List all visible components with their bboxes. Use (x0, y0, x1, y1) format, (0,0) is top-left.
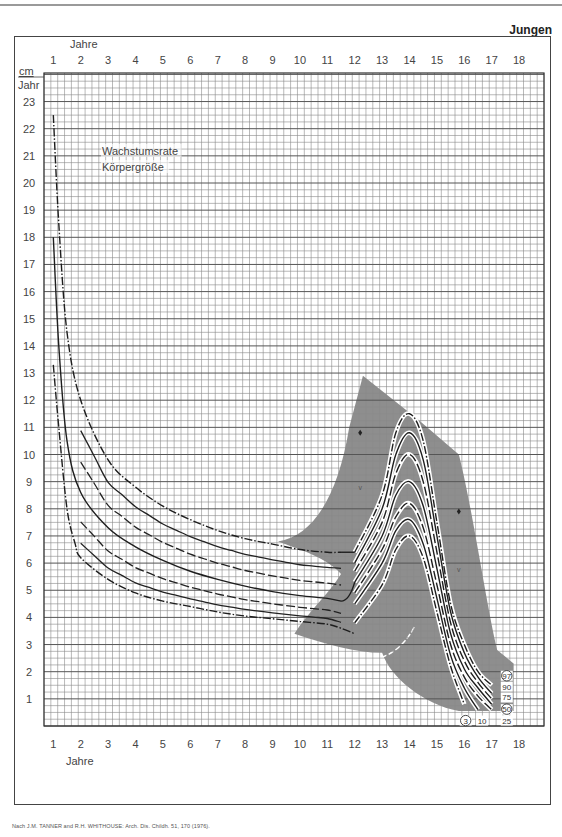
y-tick: 8 (26, 503, 32, 515)
x-tick-bottom: 11 (322, 738, 333, 750)
x-tick-top: 17 (486, 54, 498, 66)
x-tick-bottom: 1 (50, 738, 56, 750)
y-tick: 13 (23, 367, 35, 379)
growth-velocity-chart: vv3102550759097WachstumsrateKörpergröße1… (0, 0, 562, 837)
x-tick-top: 16 (458, 54, 470, 66)
x-tick-top: 13 (376, 54, 388, 66)
x-tick-bottom: 14 (403, 738, 415, 750)
x-tick-bottom: 12 (349, 738, 361, 750)
legend-label-10: 10 (478, 717, 487, 726)
source-citation: Nach J.M. TANNER and R.H. WHITHOUSE: Arc… (12, 823, 210, 829)
y-tick: 20 (23, 177, 35, 189)
x-tick-bottom: 3 (105, 738, 111, 750)
x-tick-bottom: 10 (294, 738, 306, 750)
y-unit-cm: cm (19, 65, 34, 77)
y-tick: 2 (26, 666, 32, 678)
x-tick-top: 12 (349, 54, 361, 66)
y-tick: 4 (26, 611, 32, 623)
x-axis-label-bottom: Jahre (66, 755, 94, 767)
y-unit-jahr: Jahr (18, 79, 40, 91)
y-tick: 23 (23, 96, 35, 108)
x-tick-top: 14 (403, 54, 415, 66)
x-tick-bottom: 9 (269, 738, 275, 750)
v-marker: v (358, 484, 362, 491)
x-tick-top: 10 (294, 54, 306, 66)
x-tick-top: 2 (78, 54, 84, 66)
x-tick-bottom: 16 (458, 738, 470, 750)
y-tick: 17 (23, 258, 35, 270)
svg-text:Körpergröße: Körpergröße (102, 161, 164, 173)
x-tick-bottom: 15 (431, 738, 443, 750)
x-tick-top: 7 (215, 54, 221, 66)
legend-label-75: 75 (502, 693, 511, 702)
y-tick: 1 (26, 693, 32, 705)
x-tick-bottom: 2 (78, 738, 84, 750)
y-tick: 7 (26, 530, 32, 542)
y-tick: 5 (26, 584, 32, 596)
x-tick-bottom: 13 (376, 738, 388, 750)
x-axis-label-top: Jahre (70, 38, 98, 50)
shaded-maturity-region (278, 376, 514, 711)
x-tick-top: 18 (513, 54, 525, 66)
y-tick: 15 (23, 313, 35, 325)
y-tick: 21 (23, 150, 35, 162)
y-tick: 3 (26, 639, 32, 651)
x-tick-top: 11 (322, 54, 333, 66)
y-tick: 11 (23, 421, 34, 433)
y-tick: 16 (23, 286, 35, 298)
y-tick: 9 (26, 476, 32, 488)
x-tick-top: 6 (187, 54, 193, 66)
x-tick-bottom: 17 (486, 738, 498, 750)
legend-label-25: 25 (502, 717, 511, 726)
x-tick-top: 1 (50, 54, 56, 66)
x-tick-top: 4 (132, 54, 138, 66)
x-tick-bottom: 7 (215, 738, 221, 750)
y-tick: 18 (23, 231, 35, 243)
v-marker: v (457, 566, 461, 573)
y-tick: 6 (26, 557, 32, 569)
x-tick-top: 8 (242, 54, 248, 66)
legend-label-90: 90 (502, 683, 511, 692)
y-tick: 14 (23, 340, 35, 352)
x-tick-top: 3 (105, 54, 111, 66)
x-tick-bottom: 18 (513, 738, 525, 750)
x-tick-bottom: 4 (132, 738, 138, 750)
legend-label-3: 3 (463, 717, 468, 726)
chart-title: WachstumsrateKörpergröße (101, 144, 182, 173)
y-tick: 22 (23, 123, 35, 135)
x-tick-bottom: 5 (160, 738, 166, 750)
legend-label-97: 97 (502, 672, 511, 681)
x-tick-top: 9 (269, 54, 275, 66)
y-tick: 19 (23, 204, 35, 216)
x-tick-bottom: 8 (242, 738, 248, 750)
legend-label-50: 50 (502, 705, 511, 714)
x-tick-bottom: 6 (187, 738, 193, 750)
svg-text:Wachstumsrate: Wachstumsrate (102, 145, 178, 157)
x-tick-top: 5 (160, 54, 166, 66)
y-tick: 10 (23, 449, 35, 461)
y-tick: 12 (23, 394, 35, 406)
x-tick-top: 15 (431, 54, 443, 66)
